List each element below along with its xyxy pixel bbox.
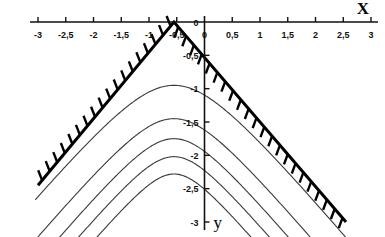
hatch-mark xyxy=(84,116,88,126)
plot-figure: -3-2,5-2-1,5-1-0,500,511,522,530-0,5-1-1… xyxy=(0,0,385,237)
x-tick-label: -1 xyxy=(145,30,153,40)
level-curve xyxy=(96,174,251,237)
hatch-mark xyxy=(167,16,171,26)
y-tick-label: -2,5 xyxy=(183,184,199,194)
x-tick-label: 0 xyxy=(202,30,207,40)
hatch-mark xyxy=(229,91,233,101)
x-axis-label: X xyxy=(357,0,370,18)
hatch-mark xyxy=(91,107,95,117)
hatch-mark xyxy=(159,25,163,35)
hatch-mark xyxy=(106,89,110,99)
hatch-mark xyxy=(68,134,72,144)
hatch-mark xyxy=(323,200,327,210)
hatch-mark xyxy=(114,80,118,90)
x-tick-label: 1 xyxy=(257,30,262,40)
hatch-mark xyxy=(99,98,103,108)
hatch-mark xyxy=(221,82,225,92)
hatch-mark xyxy=(261,127,265,137)
hatch-mark xyxy=(136,52,140,62)
x-tick-label: -2,5 xyxy=(58,30,74,40)
hatch-mark xyxy=(38,170,42,180)
hatch-mark xyxy=(214,72,218,82)
x-tick-label: 1,5 xyxy=(281,30,294,40)
hatch-mark xyxy=(237,100,241,110)
hatch-mark xyxy=(315,191,319,201)
x-tick-label: -1,5 xyxy=(113,30,129,40)
hatch-mark xyxy=(307,182,311,192)
level-curve xyxy=(59,139,290,237)
coordinate-plot: -3-2,5-2-1,5-1-0,500,511,522,530-0,5-1-1… xyxy=(0,0,385,237)
hatch-mark xyxy=(198,54,202,64)
hatch-mark xyxy=(129,61,133,71)
x-tick-label: 2,5 xyxy=(337,30,350,40)
x-tick-label: -3 xyxy=(34,30,42,40)
y-tick-label: -1,5 xyxy=(183,118,199,128)
y-tick-label: -2 xyxy=(190,151,198,161)
hatch-mark xyxy=(292,163,296,173)
y-tick-label: 0 xyxy=(193,18,198,28)
y-tick-label: -3 xyxy=(190,218,198,228)
y-tick-label: -0,5 xyxy=(183,51,199,61)
hatch-mark xyxy=(245,109,249,119)
hatch-mark xyxy=(46,161,50,171)
x-tick-label: 3 xyxy=(368,30,373,40)
hatch-mark xyxy=(268,136,272,146)
hatch-mark xyxy=(53,152,57,162)
y-tick-label: -1 xyxy=(190,84,198,94)
hatch-mark xyxy=(61,143,65,153)
curve-family xyxy=(35,85,346,237)
x-tick-label: -2 xyxy=(89,30,97,40)
hatch-mark xyxy=(144,43,148,53)
x-tick-label: 2 xyxy=(313,30,318,40)
hatch-mark xyxy=(300,172,304,182)
x-tick-label: -0,5 xyxy=(169,30,185,40)
hatch-mark xyxy=(284,154,288,164)
hatch-mark xyxy=(339,218,343,228)
hatch-mark xyxy=(121,70,125,80)
x-tick-label: 0,5 xyxy=(226,30,239,40)
hatch-mark xyxy=(76,125,80,135)
hatch-mark xyxy=(206,63,210,73)
level-curve xyxy=(77,157,270,237)
hatch-mark xyxy=(253,118,257,128)
hatch-mark xyxy=(276,145,280,155)
hatch-mark xyxy=(331,209,335,219)
y-axis-label: y xyxy=(214,213,223,232)
